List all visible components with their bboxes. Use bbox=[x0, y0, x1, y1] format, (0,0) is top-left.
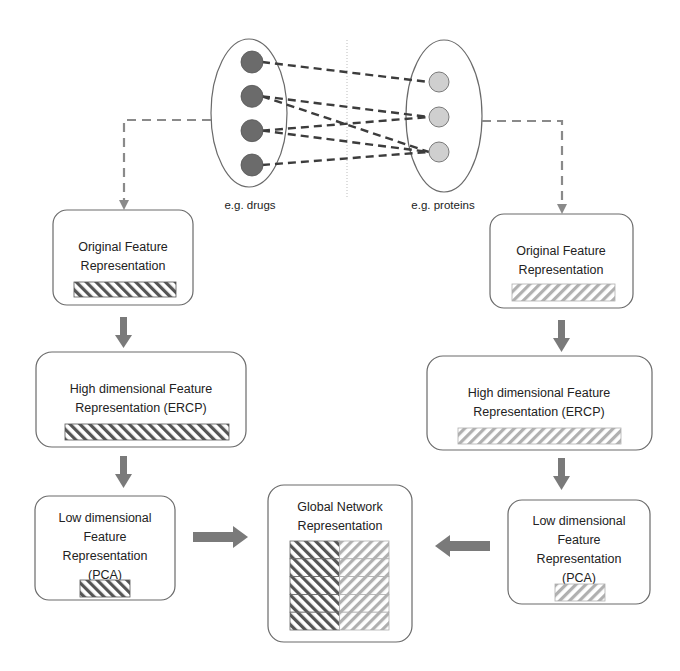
global-protein-cell bbox=[340, 612, 390, 630]
right-high-line2: Representation (ERCP) bbox=[473, 405, 604, 419]
drug-node bbox=[241, 85, 263, 107]
global-drug-cell bbox=[290, 541, 340, 559]
left-high-line2: Representation (ERCP) bbox=[75, 401, 206, 415]
global-drug-cell bbox=[290, 594, 340, 612]
right-high-box: High dimensional Feature Representation … bbox=[427, 356, 652, 450]
right-low-line3: Representation bbox=[537, 552, 622, 566]
global-drug-cell bbox=[290, 612, 340, 630]
left-original-box: Original Feature Representation bbox=[53, 210, 193, 305]
protein-nodes bbox=[429, 72, 449, 162]
flow-arrow-down-icon bbox=[553, 320, 570, 352]
drug-node bbox=[241, 51, 263, 73]
flow-arrow-down-icon bbox=[115, 456, 132, 488]
left-original-line2: Representation bbox=[81, 259, 166, 273]
protein-node bbox=[429, 72, 449, 92]
left-low-line3: Representation bbox=[63, 549, 148, 563]
global-protein-cell bbox=[340, 559, 390, 577]
drug-node bbox=[241, 154, 263, 176]
flow-arrow-down-icon bbox=[553, 458, 570, 490]
connector-arrowhead-icon bbox=[119, 200, 129, 210]
right-original-line2: Representation bbox=[519, 263, 604, 277]
left-connector bbox=[119, 120, 211, 210]
global-feature-matrix bbox=[290, 541, 389, 630]
protein-node bbox=[429, 107, 449, 127]
global-drug-cell bbox=[290, 559, 340, 577]
right-original-feature-bar bbox=[512, 284, 615, 301]
drug-set-label: e.g. drugs bbox=[224, 199, 275, 211]
interaction-edge bbox=[262, 152, 429, 165]
right-low-feature-bar bbox=[555, 584, 605, 601]
right-low-line4: (PCA) bbox=[562, 571, 596, 585]
global-protein-cell bbox=[340, 594, 390, 612]
merge-arrow-left-icon bbox=[435, 535, 490, 557]
flow-arrow-down-icon bbox=[115, 317, 132, 348]
drug-nodes bbox=[241, 51, 263, 176]
interaction-edge bbox=[262, 131, 429, 152]
left-high-feature-bar bbox=[65, 424, 229, 440]
bipartite-network: e.g. drugs e.g. proteins bbox=[211, 39, 482, 211]
right-original-line1: Original Feature bbox=[516, 244, 606, 258]
interaction-edge bbox=[262, 62, 429, 82]
workflow-diagram: e.g. drugs e.g. proteins Original Featur… bbox=[0, 0, 680, 671]
protein-set-label: e.g. proteins bbox=[411, 199, 475, 211]
connector-arrowhead-icon bbox=[557, 204, 567, 214]
left-low-feature-bar bbox=[80, 580, 130, 597]
left-low-line2: Feature bbox=[83, 530, 126, 544]
global-drug-cell bbox=[290, 577, 340, 595]
drug-node bbox=[241, 120, 263, 142]
left-low-line1: Low dimensional bbox=[58, 511, 151, 525]
left-high-line1: High dimensional Feature bbox=[70, 382, 212, 396]
left-original-feature-bar bbox=[74, 282, 176, 297]
right-low-line1: Low dimensional bbox=[532, 514, 625, 528]
left-original-line1: Original Feature bbox=[78, 240, 168, 254]
protein-node bbox=[429, 142, 449, 162]
right-connector bbox=[482, 121, 567, 214]
global-line1: Global Network bbox=[297, 500, 383, 514]
right-high-line1: High dimensional Feature bbox=[468, 386, 610, 400]
right-original-box: Original Feature Representation bbox=[490, 214, 633, 308]
global-protein-cell bbox=[340, 577, 390, 595]
left-high-box: High dimensional Feature Representation … bbox=[36, 352, 246, 447]
global-protein-cell bbox=[340, 541, 390, 559]
global-representation-box: Global Network Representation bbox=[268, 485, 412, 642]
merge-arrow-right-icon bbox=[193, 526, 248, 548]
global-line2: Representation bbox=[298, 519, 383, 533]
right-low-line2: Feature bbox=[557, 533, 600, 547]
left-low-box: Low dimensional Feature Representation (… bbox=[35, 496, 175, 600]
right-high-feature-bar bbox=[458, 428, 621, 444]
right-low-box: Low dimensional Feature Representation (… bbox=[508, 500, 650, 604]
